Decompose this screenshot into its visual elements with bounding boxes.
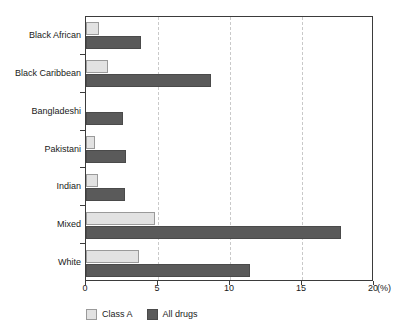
- category-axis-labels: Black AfricanBlack CaribbeanBangladeshiP…: [0, 16, 81, 281]
- bar-all-drugs: [86, 112, 123, 125]
- category-label: Black African: [1, 30, 81, 40]
- category-label: Indian: [1, 181, 81, 191]
- x-tick-mark-15: [301, 281, 302, 285]
- chart-legend: Class AAll drugs: [86, 309, 198, 320]
- x-tick-mark-10: [229, 281, 230, 285]
- x-tick-mark-20: [373, 281, 374, 285]
- category-separator-tick: [80, 54, 85, 55]
- bar-group: [86, 55, 372, 93]
- category-label: White: [1, 257, 81, 267]
- plot-area: [85, 16, 373, 281]
- bar-group: [86, 244, 372, 282]
- bar-group: [86, 93, 372, 131]
- x-tick-mark-0: [85, 281, 86, 285]
- bar-group: [86, 206, 372, 244]
- bar-group: [86, 17, 372, 55]
- category-label: Mixed: [1, 219, 81, 229]
- legend-item: All drugs: [147, 309, 198, 320]
- legend-swatch-icon: [147, 309, 158, 320]
- bar-all-drugs: [86, 226, 341, 239]
- legend-label: Class A: [102, 309, 133, 320]
- bar-class-a: [86, 174, 98, 187]
- legend-item: Class A: [86, 309, 133, 320]
- bar-group: [86, 131, 372, 169]
- bar-all-drugs: [86, 264, 250, 277]
- category-separator-tick: [80, 167, 85, 168]
- category-label: Bangladeshi: [1, 106, 81, 116]
- legend-label: All drugs: [163, 309, 198, 320]
- bar-group: [86, 168, 372, 206]
- x-tick-mark-5: [157, 281, 158, 285]
- bar-class-a: [86, 22, 99, 35]
- bar-class-a: [86, 250, 139, 263]
- category-separator-tick: [80, 243, 85, 244]
- bar-class-a: [86, 212, 155, 225]
- bar-all-drugs: [86, 36, 141, 49]
- category-separator-tick: [80, 130, 85, 131]
- bar-all-drugs: [86, 188, 125, 201]
- x-axis-tick-labels: 05101520: [0, 283, 401, 297]
- bar-class-a: [86, 60, 108, 73]
- category-label: Black Caribbean: [1, 68, 81, 78]
- legend-swatch-icon: [86, 309, 97, 320]
- category-separator-tick: [80, 92, 85, 93]
- category-label: Pakistani: [1, 144, 81, 154]
- bar-all-drugs: [86, 150, 126, 163]
- bar-all-drugs: [86, 74, 211, 87]
- category-separator-tick: [80, 205, 85, 206]
- bar-chart: Black AfricanBlack CaribbeanBangladeshiP…: [0, 0, 401, 333]
- bar-class-a: [86, 136, 95, 149]
- x-axis-unit-label: (%): [377, 283, 391, 294]
